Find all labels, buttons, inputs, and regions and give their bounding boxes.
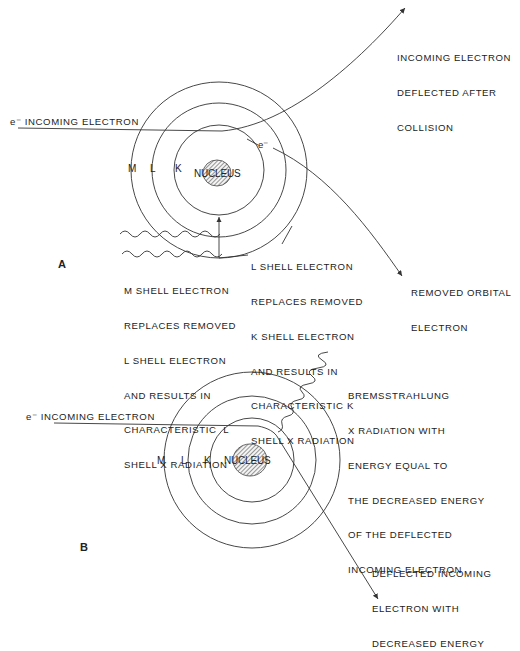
- text-line: DEFLECTED AFTER: [397, 87, 511, 99]
- text-line: L SHELL ELECTRON: [251, 261, 363, 273]
- b-nucleus-label: NUCLEUS: [224, 455, 270, 466]
- a-deflected-label: INCOMING ELECTRON DEFLECTED AFTER COLLIS…: [397, 29, 511, 145]
- text-line: OF THE DEFLECTED: [348, 529, 485, 541]
- a-removed-label: REMOVED ORBITAL ELECTRON: [411, 264, 512, 345]
- a-l-to-k-label: L SHELL ELECTRON REPLACES REMOVED K SHEL…: [251, 238, 363, 458]
- text-line: AND RESULTS IN: [251, 366, 363, 378]
- a-shell-l-label: L: [150, 163, 156, 174]
- text-line: ELECTRON WITH: [372, 603, 492, 615]
- b-shell-k-label: K: [204, 455, 211, 466]
- text-line: COLLISION: [397, 122, 511, 134]
- text-line: DECREASED ENERGY: [372, 638, 492, 650]
- a-shell-k-label: K: [175, 163, 182, 174]
- b-panel-label: B: [80, 541, 88, 553]
- text-line: M SHELL ELECTRON: [124, 285, 236, 297]
- text-line: X RADIATION WITH: [348, 425, 485, 437]
- text-line: SHELL X RADIATION: [251, 435, 363, 447]
- a-wave-bottom-icon: [122, 251, 222, 257]
- a-m-to-l-label: M SHELL ELECTRON REPLACES REMOVED L SHEL…: [124, 262, 236, 482]
- a-orbital-electron-label: e⁻: [258, 139, 268, 150]
- text-line: CHARACTERISTIC K: [251, 400, 363, 412]
- b-incoming-label: e⁻ INCOMING ELECTRON: [26, 411, 155, 423]
- text-line: INCOMING ELECTRON: [397, 52, 511, 64]
- text-line: CHARACTERISTIC L: [124, 424, 236, 436]
- text-line: SHELL X RADIATION: [124, 459, 236, 471]
- text-line: ENERGY EQUAL TO: [348, 460, 485, 472]
- a-leader-ltok: [219, 255, 248, 258]
- panel-a-atom: [18, 8, 405, 276]
- text-line: REPLACES REMOVED: [124, 320, 236, 332]
- b-shell-l-label: L: [181, 455, 187, 466]
- a-nucleus-label: NUCLEUS: [194, 168, 240, 179]
- text-line: DEFLECTED INCOMING: [372, 568, 492, 580]
- a-panel-label: A: [58, 258, 66, 270]
- text-line: REPLACES REMOVED: [251, 296, 363, 308]
- text-line: ELECTRON: [411, 322, 512, 334]
- a-shell-m-label: M: [128, 163, 136, 174]
- text-line: THE DECREASED ENERGY: [348, 495, 485, 507]
- a-wave-top-icon: [120, 231, 220, 237]
- b-deflected-label: DEFLECTED INCOMING ELECTRON WITH DECREAS…: [372, 545, 492, 651]
- text-line: AND RESULTS IN: [124, 390, 236, 402]
- text-line: REMOVED ORBITAL: [411, 287, 512, 299]
- b-shell-m-label: M: [157, 455, 165, 466]
- text-line: BREMSSTRAHLUNG: [348, 390, 485, 402]
- text-line: L SHELL ELECTRON: [124, 355, 236, 367]
- a-incoming-path: [18, 8, 405, 131]
- text-line: K SHELL ELECTRON: [251, 331, 363, 343]
- a-incoming-label: e⁻ INCOMING ELECTRON: [10, 116, 139, 128]
